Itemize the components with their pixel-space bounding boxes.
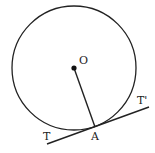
radius-OA: [74, 68, 95, 127]
label-A: A: [90, 130, 100, 143]
label-T-prime: T': [137, 94, 147, 107]
label-O: O: [79, 54, 88, 67]
diagram-canvas: O A T T': [0, 0, 155, 153]
center-point: [71, 65, 76, 70]
label-T: T: [43, 130, 51, 143]
